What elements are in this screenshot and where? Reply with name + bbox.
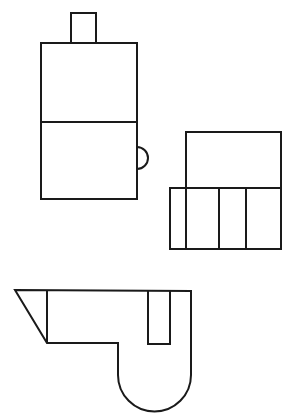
top-inner-slot bbox=[148, 291, 170, 344]
top-outline bbox=[15, 290, 191, 412]
front-semicircle-bump bbox=[137, 147, 148, 169]
side-view bbox=[170, 132, 281, 249]
side-upper-block bbox=[186, 132, 281, 188]
front-top-tab bbox=[71, 13, 96, 43]
top-view bbox=[15, 290, 191, 412]
front-view bbox=[41, 13, 148, 199]
orthographic-drawing bbox=[0, 0, 298, 415]
